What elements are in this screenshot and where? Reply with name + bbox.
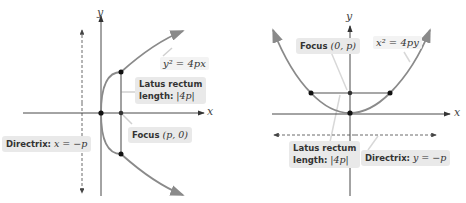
parabola-diagrams <box>0 0 466 203</box>
latus-endpoint <box>388 91 393 96</box>
vertex-point <box>347 110 352 115</box>
latus-rectum-label: Latus rectum length: |4p| <box>289 141 360 168</box>
y-axis-label: y <box>97 7 103 18</box>
latus-endpoint <box>309 91 314 96</box>
left-diagram <box>23 16 204 196</box>
focus-label: Focus (0, p) <box>296 38 360 54</box>
equation-label: y² = 4px <box>160 57 209 70</box>
directrix-label: Directrix: x = −p <box>2 136 91 152</box>
x-axis-label: x <box>454 107 460 118</box>
y-axis-label: y <box>346 11 352 22</box>
focus-point <box>348 91 353 96</box>
x-axis-label: x <box>207 106 213 117</box>
equation-label: x² = 4py <box>373 36 422 49</box>
vertex-point <box>98 110 103 115</box>
directrix-label: Directrix: y = −p <box>361 150 450 166</box>
latus-rectum-label: Latus rectum length: |4p| <box>135 77 206 104</box>
focus-leader-line <box>121 113 132 124</box>
focus-label: Focus (p, 0) <box>128 127 192 143</box>
latus-endpoint <box>119 70 124 75</box>
focus-point <box>119 111 124 116</box>
parabola-curve <box>311 93 390 113</box>
equation-leader-line <box>163 48 172 56</box>
latus-endpoint <box>119 152 124 157</box>
